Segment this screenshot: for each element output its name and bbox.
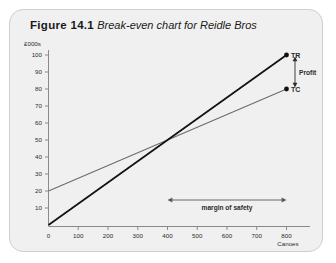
tr-label: TR	[291, 52, 300, 59]
x-tick-label: 600	[222, 232, 233, 239]
y-tick-label: 30	[35, 170, 42, 177]
x-axis-tick-labels: 0 100 200 300 400 500 600 700 800	[47, 232, 292, 239]
tr-endpoint-marker	[284, 53, 289, 58]
x-axis-ticks	[78, 227, 286, 231]
x-tick-label: 800	[281, 232, 292, 239]
x-tick-label: 700	[252, 232, 263, 239]
figure-frame: Figure 14.1 Break-even chart for Reidle …	[9, 9, 323, 252]
y-tick-label: 80	[35, 85, 42, 92]
margin-of-safety-label: margin of safety	[202, 204, 253, 212]
x-tick-label: 0	[47, 232, 51, 239]
x-tick-label: 500	[192, 232, 203, 239]
x-tick-label: 200	[103, 232, 114, 239]
y-tick-label: 70	[35, 102, 42, 109]
profit-label: Profit	[299, 69, 317, 76]
y-tick-label: 40	[35, 153, 42, 160]
y-tick-label: 100	[32, 51, 43, 58]
margin-of-safety-annotation: margin of safety	[168, 198, 287, 213]
tr-line	[49, 55, 287, 225]
y-tick-label: 50	[35, 136, 42, 143]
tc-endpoint-marker	[284, 87, 289, 92]
y-tick-label: 60	[35, 119, 42, 126]
tc-label: TC	[291, 86, 300, 93]
y-axis-tick-labels: 100 90 80 70 60 50 40 30 20 10	[32, 51, 43, 211]
x-axis-unit-label: Canoes	[277, 240, 298, 247]
y-tick-label: 90	[35, 68, 42, 75]
x-tick-label: 300	[133, 232, 144, 239]
y-tick-label: 10	[35, 204, 42, 211]
y-tick-label: 20	[35, 187, 42, 194]
x-tick-label: 400	[162, 232, 173, 239]
y-axis-ticks	[45, 55, 49, 208]
x-tick-label: 100	[73, 232, 84, 239]
break-even-chart: £000s 100 90 80 70 60 50 40 30 20	[10, 10, 324, 253]
profit-annotation: Profit	[293, 57, 317, 88]
y-axis-unit-label: £000s	[24, 40, 41, 47]
